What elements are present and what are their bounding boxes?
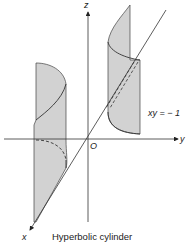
diagram-canvas	[0, 0, 186, 244]
hyperbolic-cylinder-diagram: z y x O xy = − 1 Hyperbolic cylinder	[0, 0, 186, 244]
equation-label: xy = − 1	[148, 109, 180, 118]
x-axis-label: x	[22, 233, 27, 242]
right-sheet	[108, 5, 140, 134]
left-sheet	[34, 63, 67, 222]
origin-label: O	[90, 142, 97, 151]
z-axis-label: z	[84, 1, 89, 10]
figure-caption: Hyperbolic cylinder	[52, 232, 132, 242]
y-axis-label: y	[180, 135, 185, 144]
